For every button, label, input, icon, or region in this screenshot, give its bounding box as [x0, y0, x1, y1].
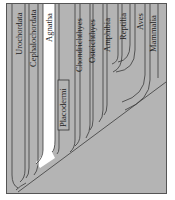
- label-urochordata: Urochordata: [14, 12, 24, 55]
- label-agnatha: Agnatha: [44, 13, 54, 42]
- label-chondrichthyes: Chondrichthyes: [74, 18, 84, 72]
- label-osteichthyes: Osteichthyes: [87, 19, 97, 63]
- label-placodermi: Placodermi: [58, 88, 68, 127]
- label-mammalia: Mammalia: [148, 15, 158, 52]
- label-cephalochordata: Cephalochordata: [28, 9, 38, 67]
- label-aves: Aves: [135, 13, 145, 30]
- cladogram: Urochordata Cephalochordata Agnatha Plac…: [0, 0, 175, 200]
- label-reptilia: Reptilia: [118, 13, 128, 40]
- label-amphibia: Amphibia: [102, 18, 112, 52]
